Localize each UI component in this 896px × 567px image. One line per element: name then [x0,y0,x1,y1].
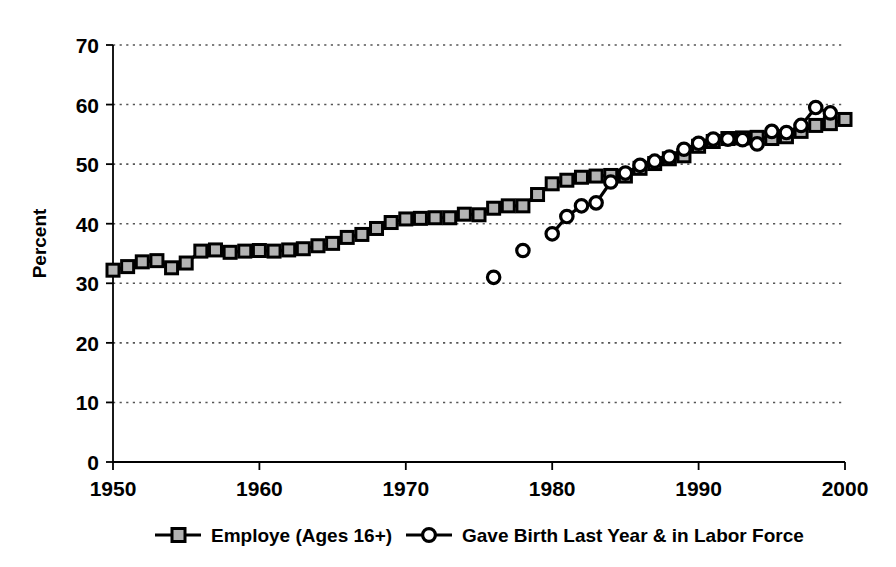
axes [106,45,845,470]
employed-series-marker [151,255,163,267]
y-tick-label-60: 60 [76,94,99,117]
employed-series-marker [209,244,221,256]
y-tick-label-70: 70 [76,34,99,57]
gave-birth-series-seg2-marker [605,176,617,188]
employed-series-marker [297,243,309,255]
gave-birth-series-seg2-marker [634,159,646,171]
x-tick-label-2000: 2000 [822,477,869,500]
employed-series-marker [283,244,295,256]
employed-series-marker [488,202,500,214]
line-chart: 010203040506070195019601970198019902000P… [0,0,896,567]
employed-series-marker [458,208,470,220]
legend-label-gave-birth: Gave Birth Last Year & in Labor Force [462,525,804,546]
employed-series-marker [839,113,851,125]
employed-series-marker [546,178,558,190]
employed-series-marker [810,119,822,131]
employed-series-marker [195,245,207,257]
gave-birth-series-seg2-marker [766,125,778,137]
employed-series-marker [224,246,236,258]
employed-series-marker [312,240,324,252]
legend-label-employed: Employe (Ages 16+) [211,525,392,546]
legend-square-marker [172,529,185,542]
y-tick-label-20: 20 [76,332,99,355]
gave-birth-series-seg2-marker [590,197,602,209]
gave-birth-series-seg2-marker [824,107,836,119]
employed-series-marker [532,189,544,201]
employed-series-marker [136,256,148,268]
gave-birth-series-seg2-marker [619,167,631,179]
legend: Employe (Ages 16+)Gave Birth Last Year &… [155,525,804,546]
gave-birth-series-seg2-marker [575,200,587,212]
employed-series-marker [371,222,383,234]
gave-birth-series-seg2-marker [795,119,807,131]
employed-series-marker [400,213,412,225]
x-tick-label-1960: 1960 [236,477,283,500]
employed-series-marker [429,212,441,224]
y-tick-label-0: 0 [87,451,99,474]
employed-series-marker [575,171,587,183]
y-tick-label-50: 50 [76,153,99,176]
employed-series-marker [268,245,280,257]
employed-series-marker [502,200,514,212]
grid-lines [113,45,845,402]
employed-series-marker [385,217,397,229]
y-tick-label-30: 30 [76,272,99,295]
employed-series-marker [444,212,456,224]
gave-birth-series-seg2-marker [648,155,660,167]
gave-birth-series-seg1-marker [517,244,529,256]
gave-birth-series-seg2-marker [722,133,734,145]
employed-series-marker [590,170,602,182]
gave-birth-series-seg2-marker [751,138,763,150]
gave-birth-series-seg2-marker [707,133,719,145]
gave-birth-series-seg2-marker [663,151,675,163]
employed-series-marker [341,231,353,243]
employed-series-marker [561,174,573,186]
employed-series-marker [356,228,368,240]
employed-series-marker [327,237,339,249]
gave-birth-series-seg2-marker [561,210,573,222]
gave-birth-series-seg2-marker [692,137,704,149]
employed-series-marker [122,261,134,273]
x-tick-label-1990: 1990 [675,477,722,500]
gave-birth-series-seg2-marker [546,228,558,240]
gave-birth-series-seg0-marker [487,271,499,283]
employed-series-marker [107,264,119,276]
x-tick-label-1950: 1950 [90,477,137,500]
y-tick-label-10: 10 [76,391,99,414]
data-series [107,101,851,283]
employed-series-marker [517,200,529,212]
gave-birth-series-seg2-marker [780,126,792,138]
employed-series-marker [180,257,192,269]
employed-series-marker [166,262,178,274]
gave-birth-series-seg2-marker [810,101,822,113]
employed-series-marker [414,212,426,224]
x-tick-label-1980: 1980 [529,477,576,500]
chart-figure: 010203040506070195019601970198019902000P… [0,0,896,567]
y-axis-title: Percent [29,208,50,278]
employed-series-marker [473,209,485,221]
gave-birth-series-seg2-marker [678,143,690,155]
employed-series-marker [239,245,251,257]
legend-circle-marker [423,529,436,542]
x-tick-label-1970: 1970 [382,477,429,500]
employed-series-marker [253,245,265,257]
y-tick-label-40: 40 [76,213,99,236]
gave-birth-series-seg2-marker [736,134,748,146]
